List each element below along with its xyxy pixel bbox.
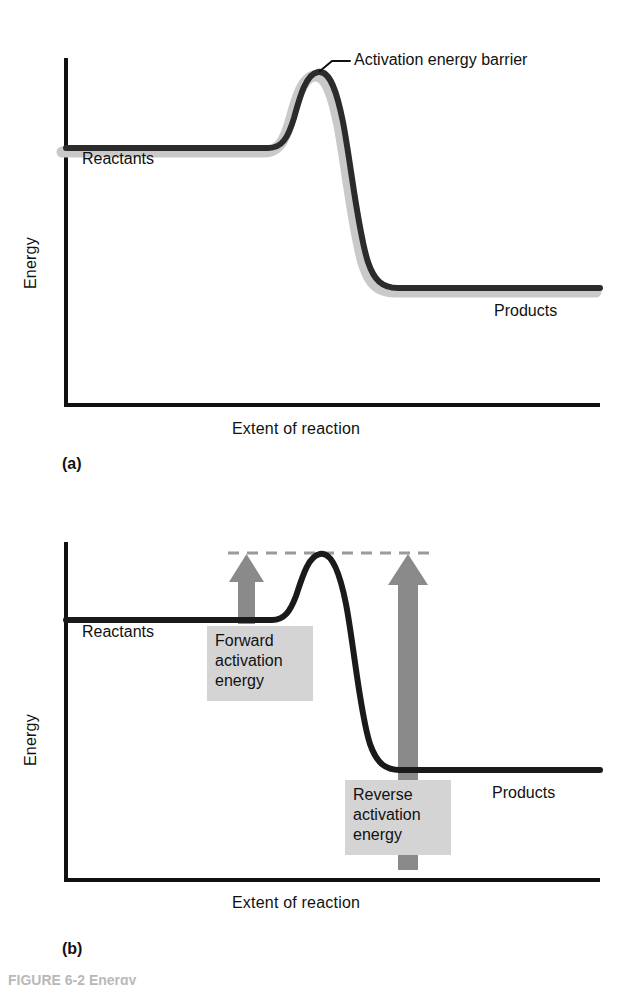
panel-a-callout-leader-line xyxy=(320,61,350,71)
panel-a: Energy Extent of reaction Reactants Prod… xyxy=(0,0,623,492)
figure-caption: FIGURE 6-2 Energy xyxy=(8,972,608,985)
panel-a-activation-energy-barrier-label: Activation energy barrier xyxy=(354,51,527,69)
panel-b-letter: (b) xyxy=(62,940,82,958)
forward-activation-energy-arrow xyxy=(229,554,264,624)
reverse-activation-energy-line-1: Reverse xyxy=(353,785,443,805)
panel-b-energy-curve xyxy=(66,554,600,770)
reverse-activation-energy-line-3: energy xyxy=(353,825,443,845)
panel-a-curve-shadow xyxy=(62,76,596,292)
panel-a-plot xyxy=(0,0,623,492)
panel-a-products-label: Products xyxy=(494,302,557,320)
panel-b: Energy Extent of reaction Reactants Prod… xyxy=(0,492,623,985)
panel-a-x-axis-label: Extent of reaction xyxy=(232,420,360,438)
forward-activation-energy-line-3: energy xyxy=(215,671,305,691)
forward-activation-energy-line-1: Forward xyxy=(215,631,305,651)
panel-b-y-axis-label: Energy xyxy=(22,714,40,766)
reverse-activation-energy-line-2: activation xyxy=(353,805,443,825)
reverse-activation-energy-box: Reverse activation energy xyxy=(345,780,451,855)
panel-b-reactants-label: Reactants xyxy=(82,623,154,641)
panel-b-x-axis-label: Extent of reaction xyxy=(232,894,360,912)
panel-a-letter: (a) xyxy=(62,455,82,473)
panel-a-y-axis-label: Energy xyxy=(22,237,40,289)
panel-a-reactants-label: Reactants xyxy=(82,150,154,168)
forward-activation-energy-line-2: activation xyxy=(215,651,305,671)
figure-page: Energy Extent of reaction Reactants Prod… xyxy=(0,0,623,985)
panel-b-products-label: Products xyxy=(492,784,555,802)
forward-activation-energy-box: Forward activation energy xyxy=(207,626,313,701)
